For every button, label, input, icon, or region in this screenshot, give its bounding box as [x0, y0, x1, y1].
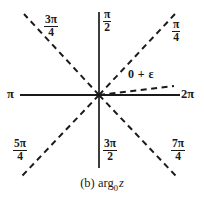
ray-0-plus-epsilon [99, 86, 174, 95]
fraction-3pi-over-2: 3π 2 [103, 138, 117, 163]
caption-function-name: arg [98, 176, 114, 190]
label-7pi-over-4: 7π 4 [171, 138, 185, 163]
label-3pi-over-2-bottom: 3π 2 [103, 138, 117, 163]
label-pi-over-4: π 4 [172, 19, 180, 44]
caption-prefix: (b) [80, 176, 95, 190]
label-5pi-over-4: 5π 4 [13, 138, 27, 163]
label-0-plus-epsilon: 0 + ε [128, 68, 154, 80]
label-2pi-right: 2π [181, 88, 194, 101]
ray-7pi-over-4 [99, 95, 176, 176]
fraction-7pi-over-4: 7π 4 [171, 138, 185, 163]
fraction-3pi-over-4: 3π 4 [44, 14, 58, 39]
label-pi-over-2-top: π 2 [103, 9, 111, 34]
ray-3pi-over-4 [24, 14, 99, 95]
fraction-pi-over-4: π 4 [172, 19, 180, 44]
figure-caption: (b) arg0z [0, 176, 204, 193]
ray-5pi-over-4 [22, 95, 99, 176]
label-pi-left: π [7, 88, 14, 101]
fraction-pi-over-2: π 2 [103, 9, 111, 34]
label-3pi-over-4: 3π 4 [44, 14, 58, 39]
caption-variable: z [118, 176, 124, 190]
fraction-5pi-over-4: 5π 4 [13, 138, 27, 163]
figure-arg0-z: π 2π π 2 3π 2 3π 4 π 4 5π 4 [0, 0, 204, 202]
